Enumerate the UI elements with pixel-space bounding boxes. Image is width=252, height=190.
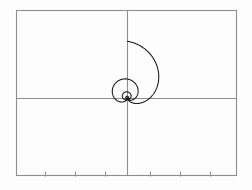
polar-curve-plot (0, 0, 252, 190)
plot-canvas (0, 0, 252, 190)
plot-background (0, 0, 252, 190)
